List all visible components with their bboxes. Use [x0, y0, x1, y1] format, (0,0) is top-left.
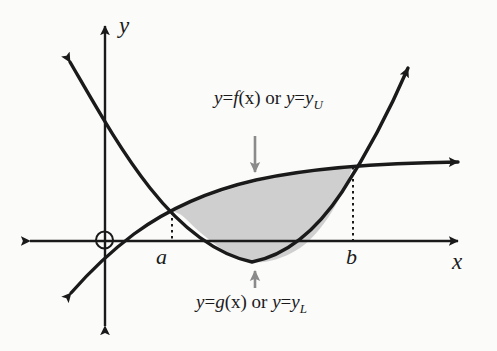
lower-label-y2: y [272, 291, 280, 312]
lower-label-eq2: = [281, 291, 292, 312]
upper-label-subscript: U [314, 97, 323, 112]
upper-label-eq1: = [222, 87, 233, 108]
upper-label-or: or [261, 87, 286, 108]
tick-label-a: a [156, 246, 167, 268]
area-between-curves-figure: y x a b y=f(x) or y=yU y=g(x) or y=yL [0, 0, 497, 351]
upper-label-y3: y [305, 87, 313, 108]
lower-label-arg: (x) [225, 291, 247, 312]
lower-label-eq1: = [204, 291, 215, 312]
upper-label-arg: (x) [238, 87, 260, 108]
lower-curve-label: y=g(x) or y=yL [196, 292, 307, 315]
x-axis-label: x [452, 250, 462, 273]
lower-label-subscript: L [300, 301, 307, 316]
upper-label-eq2: = [294, 87, 305, 108]
tick-label-b: b [346, 246, 357, 268]
lower-label-y3: y [291, 291, 299, 312]
lower-label-or: or [247, 291, 272, 312]
lower-label-fn: g [215, 291, 225, 312]
y-axis-label: y [119, 14, 129, 37]
upper-curve-label: y=f(x) or y=yU [214, 88, 323, 111]
